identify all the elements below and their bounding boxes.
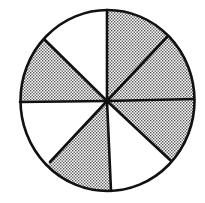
fraction-circle-diagram — [0, 0, 205, 203]
center-point — [104, 98, 110, 104]
circle-svg — [0, 0, 205, 203]
divider-left — [20, 101, 107, 102]
